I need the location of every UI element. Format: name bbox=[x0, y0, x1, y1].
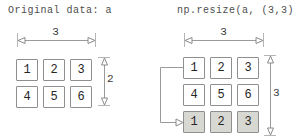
matrix-cell: 2 bbox=[43, 59, 65, 81]
matrix-cell: 5 bbox=[43, 86, 65, 108]
left-width-dimension-label: 3 bbox=[16, 26, 95, 38]
right-height-dimension-label: 3 bbox=[273, 87, 280, 99]
right-panel-title: np.resize(a, (3,3)) bbox=[177, 5, 295, 17]
matrix-cell: 4 bbox=[16, 86, 38, 108]
matrix-cell: 3 bbox=[70, 59, 92, 81]
matrix-cell-highlighted: 1 bbox=[183, 111, 205, 133]
left-height-dimension-label: 2 bbox=[107, 73, 114, 85]
left-panel-title: Original data: a bbox=[8, 5, 112, 17]
matrix-cell: 6 bbox=[237, 84, 259, 106]
matrix-cell: 4 bbox=[183, 84, 205, 106]
matrix-cell-highlighted: 3 bbox=[237, 111, 259, 133]
wrap-connector-arrow bbox=[161, 68, 184, 127]
matrix-cell: 5 bbox=[210, 84, 232, 106]
matrix-cell: 2 bbox=[210, 57, 232, 79]
right-width-dimension-label: 3 bbox=[184, 26, 263, 38]
numpy-resize-diagram: Original data: a np.resize(a, (3,3)) 3 2… bbox=[0, 0, 295, 139]
matrix-cell: 3 bbox=[237, 57, 259, 79]
matrix-cell-highlighted: 2 bbox=[210, 111, 232, 133]
matrix-cell: 1 bbox=[183, 57, 205, 79]
matrix-cell: 6 bbox=[70, 86, 92, 108]
matrix-cell: 1 bbox=[16, 59, 38, 81]
